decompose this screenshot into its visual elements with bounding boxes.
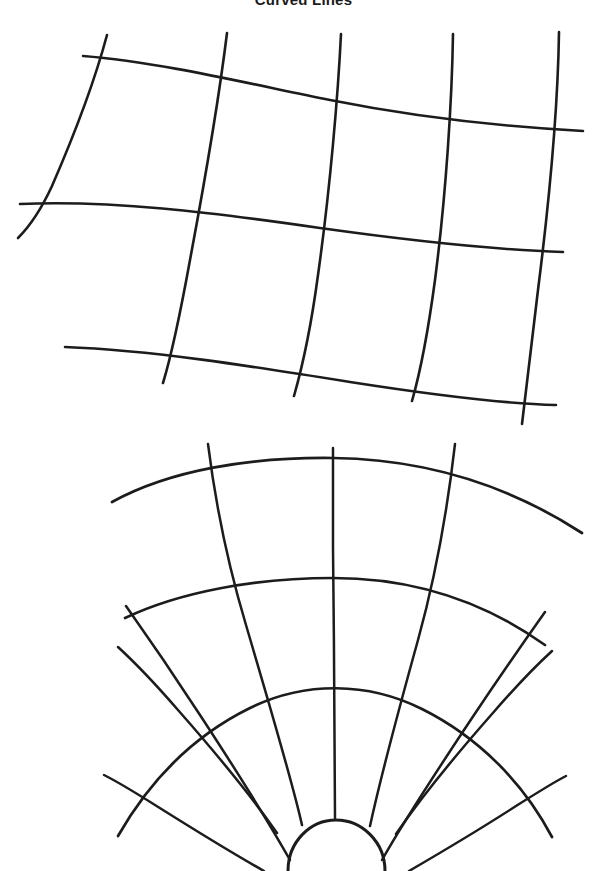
fan-ray-5-center	[333, 448, 335, 818]
top-grid-horizontal-3	[65, 347, 556, 405]
fan-arcs	[112, 458, 582, 837]
fan-ray-7	[382, 612, 545, 860]
bottom-panel-fan-grid	[104, 444, 582, 871]
top-grid-vertical-1	[18, 35, 107, 238]
fan-ray-6	[370, 444, 455, 826]
top-grid-horizontal-1	[83, 56, 583, 131]
fan-hub-semicircle	[288, 820, 385, 871]
fan-ray-1	[104, 775, 264, 871]
top-grid-horizontal-2	[20, 203, 563, 252]
line-drawing-canvas	[0, 0, 607, 871]
top-grid-vertical-4	[412, 34, 453, 401]
fan-hub	[288, 820, 385, 871]
top-grid-vertical-3	[294, 34, 341, 396]
fan-ray-4	[208, 444, 302, 825]
top-panel-distorted-grid	[18, 32, 583, 424]
top-grid-vertical-2	[163, 33, 227, 383]
top-grid-horizontal-lines	[20, 56, 583, 405]
top-grid-vertical-5	[522, 32, 559, 424]
fan-rays	[104, 444, 566, 871]
fan-ray-9	[409, 776, 566, 871]
figure-root: Curved Lines	[0, 0, 607, 871]
fan-arc-outer	[112, 458, 582, 533]
